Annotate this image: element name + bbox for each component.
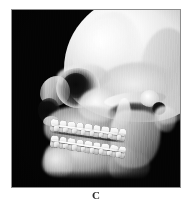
orthodontic-bracket <box>54 126 59 131</box>
background-mask-bottom <box>12 171 180 187</box>
orthodontic-bracket <box>116 152 121 157</box>
orthodontic-bracket <box>117 135 122 140</box>
orthodontic-bracket <box>63 144 68 149</box>
figure-panel <box>11 9 181 188</box>
orthodontic-bracket <box>63 128 68 133</box>
skull-3d-reconstruction-image <box>12 10 180 187</box>
orthodontic-bracket <box>72 129 77 134</box>
orthodontic-bracket <box>90 131 95 136</box>
orthodontic-bracket <box>99 133 104 138</box>
orthodontic-bracket <box>81 130 86 135</box>
orthodontic-bracket <box>81 147 86 152</box>
panel-caption-label: C <box>0 188 192 203</box>
background-mask-left <box>12 10 46 187</box>
orthodontic-bracket <box>99 149 104 154</box>
orthodontic-bracket <box>90 148 95 153</box>
orthodontic-bracket <box>107 151 112 156</box>
orthodontic-bracket <box>54 142 59 147</box>
orthodontic-bracket <box>108 134 113 139</box>
orthodontic-bracket <box>72 145 77 150</box>
